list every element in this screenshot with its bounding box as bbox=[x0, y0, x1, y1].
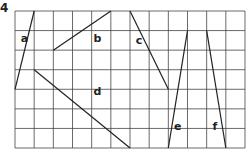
segment-label-a: a bbox=[21, 32, 28, 45]
segment-label-b: b bbox=[94, 32, 102, 45]
segment-label-f: f bbox=[212, 120, 217, 133]
grid-diagram: abcdef bbox=[0, 0, 250, 153]
segment-label-d: d bbox=[94, 85, 102, 98]
segment-label-e: e bbox=[174, 120, 181, 133]
segment-label-c: c bbox=[136, 34, 143, 47]
